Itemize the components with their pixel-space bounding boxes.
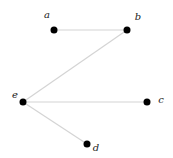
nodes [20,27,151,148]
node-label-b: b [135,11,141,22]
node-c [144,99,151,106]
node-a [51,27,58,34]
node-label-a: a [44,9,50,20]
node-e [20,99,27,106]
node-label-d: d [93,142,99,153]
edges [23,30,147,144]
graph-diagram: abcde [0,0,173,158]
node-label-c: c [158,94,164,105]
node-b [124,27,131,34]
edge-b-e [23,30,127,102]
node-d [84,141,91,148]
node-label-e: e [12,89,18,100]
edge-e-d [23,102,87,144]
